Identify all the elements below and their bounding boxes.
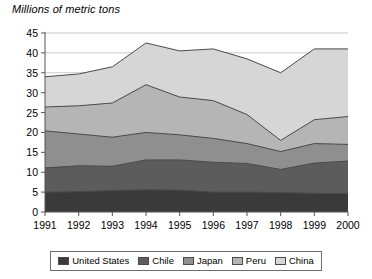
x-axis-ticks: 1991199219931994199519961997199819992000 bbox=[33, 212, 360, 231]
legend-swatch-icon bbox=[58, 257, 69, 265]
y-tick-label: 20 bbox=[26, 126, 38, 138]
x-tick-label: 1997 bbox=[235, 219, 259, 231]
stacked-area-chart: Millions of metric tons 0510152025303540… bbox=[0, 0, 372, 279]
x-tick-label: 1998 bbox=[269, 219, 293, 231]
legend-item-china[interactable]: China bbox=[275, 256, 314, 266]
y-tick-label: 10 bbox=[26, 166, 38, 178]
x-tick-label: 1993 bbox=[101, 219, 125, 231]
legend: United StatesChileJapanPeruChina bbox=[50, 251, 322, 271]
x-tick-label: 1992 bbox=[67, 219, 91, 231]
x-tick-label: 2000 bbox=[336, 219, 360, 231]
y-tick-label: 40 bbox=[26, 47, 38, 59]
y-tick-label: 25 bbox=[26, 107, 38, 119]
x-tick-label: 1994 bbox=[134, 219, 158, 231]
y-axis-ticks: 051015202530354045 bbox=[26, 27, 45, 218]
y-tick-label: 15 bbox=[26, 146, 38, 158]
x-tick-label: 1995 bbox=[168, 219, 192, 231]
x-tick-label: 1999 bbox=[303, 219, 327, 231]
legend-label: China bbox=[289, 256, 314, 266]
legend-label: Japan bbox=[197, 256, 223, 266]
y-tick-label: 0 bbox=[32, 206, 38, 218]
legend-label: Chile bbox=[152, 256, 174, 266]
legend-label: United States bbox=[72, 256, 129, 266]
x-tick-label: 1996 bbox=[202, 219, 226, 231]
y-tick-label: 30 bbox=[26, 87, 38, 99]
y-tick-label: 45 bbox=[26, 27, 38, 39]
legend-swatch-icon bbox=[232, 257, 243, 265]
x-tick-label: 1991 bbox=[33, 219, 57, 231]
y-tick-label: 35 bbox=[26, 67, 38, 79]
legend-item-peru[interactable]: Peru bbox=[232, 256, 266, 266]
plot-area: 051015202530354045 199119921993199419951… bbox=[0, 0, 372, 279]
area-series-group bbox=[45, 43, 348, 212]
legend-swatch-icon bbox=[275, 257, 286, 265]
legend-item-chile[interactable]: Chile bbox=[138, 256, 174, 266]
y-tick-label: 5 bbox=[32, 186, 38, 198]
legend-swatch-icon bbox=[138, 257, 149, 265]
legend-swatch-icon bbox=[183, 257, 194, 265]
legend-item-japan[interactable]: Japan bbox=[183, 256, 223, 266]
legend-label: Peru bbox=[246, 256, 266, 266]
legend-item-united-states[interactable]: United States bbox=[58, 256, 129, 266]
